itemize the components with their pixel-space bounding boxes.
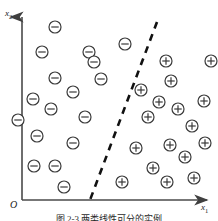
plus-circle	[199, 137, 211, 149]
y-axis-label-subscript: 2	[9, 13, 12, 20]
plus-circle	[130, 142, 142, 154]
minus-circle	[49, 21, 61, 33]
plus-circle	[161, 176, 173, 188]
plus-circle	[179, 151, 191, 163]
minus-circle	[12, 114, 24, 126]
minus-circle	[119, 38, 131, 50]
plus-circle	[188, 172, 200, 184]
minus-circle	[67, 86, 79, 98]
plus-circle	[164, 139, 176, 151]
minus-circle	[36, 46, 48, 58]
figure-container: x2 x1 O 图 2-3 两类线性可分的实例	[0, 0, 218, 221]
minus-circle	[28, 160, 40, 172]
plus-circle	[142, 111, 154, 123]
plus-circle	[135, 84, 147, 96]
plus-circle	[198, 95, 210, 107]
plus-circle	[186, 120, 198, 132]
minus-circle	[67, 137, 79, 149]
minus-circle	[45, 103, 57, 115]
origin-label: O	[10, 200, 17, 210]
plus-circle	[147, 162, 159, 174]
minus-circle	[79, 111, 91, 123]
minus-circle	[27, 93, 39, 105]
plus-circle	[165, 75, 177, 87]
positive-class-markers	[116, 55, 217, 188]
plus-circle	[116, 176, 128, 188]
plus-circle	[153, 96, 165, 108]
minus-circle	[95, 73, 107, 85]
plus-circle	[160, 55, 172, 67]
negative-class-markers	[12, 21, 131, 193]
figure-caption: 图 2-3 两类线性可分的实例	[0, 212, 218, 221]
scatter-plot-canvas	[0, 0, 218, 221]
minus-circle	[31, 130, 43, 142]
y-axis-label: x2	[5, 9, 12, 20]
plus-circle	[205, 55, 217, 67]
minus-circle	[49, 160, 61, 172]
minus-circle	[58, 181, 70, 193]
minus-circle	[88, 56, 100, 68]
plus-circle	[172, 103, 184, 115]
minus-circle	[49, 72, 61, 84]
